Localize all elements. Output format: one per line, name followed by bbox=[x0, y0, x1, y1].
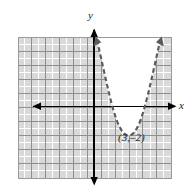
graph-figure: y x (3,–2) bbox=[0, 0, 194, 192]
y-axis-down-arrowhead bbox=[91, 177, 98, 186]
coordinate-plane bbox=[0, 0, 194, 192]
vertex-coordinate-label: (3,–2) bbox=[118, 131, 145, 143]
y-axis-up-arrowhead bbox=[91, 29, 98, 38]
x-axis-label: x bbox=[179, 100, 184, 111]
x-axis-right-arrowhead bbox=[168, 103, 177, 110]
y-axis-label: y bbox=[88, 10, 93, 21]
